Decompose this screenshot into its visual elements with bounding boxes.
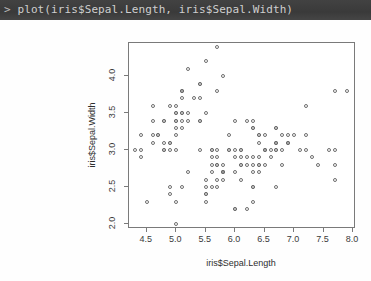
scatter-point: [292, 133, 296, 137]
scatter-point: [304, 148, 308, 152]
scatter-point: [333, 178, 337, 182]
scatter-point: [168, 104, 172, 108]
y-tick-label: 2.0: [107, 217, 117, 230]
scatter-point: [251, 163, 255, 167]
scatter-point: [198, 96, 202, 100]
scatter-point: [162, 141, 166, 145]
scatter-point: [174, 222, 178, 226]
scatter-point: [174, 133, 178, 137]
scatter-point: [145, 200, 149, 204]
scatter-point: [274, 148, 278, 152]
scatter-point: [139, 133, 143, 137]
scatter-point: [168, 148, 172, 152]
scatter-point: [304, 133, 308, 137]
scatter-point: [239, 155, 243, 159]
scatter-point: [227, 148, 231, 152]
scatter-point: [198, 82, 202, 86]
y-tick: [124, 186, 128, 187]
x-tick-label: 4.5: [139, 234, 152, 244]
scatter-point: [215, 89, 219, 93]
scatter-point: [174, 104, 178, 108]
x-tick: [293, 228, 294, 232]
scatter-point: [251, 200, 255, 204]
x-tick-label: 6.0: [228, 234, 241, 244]
scatter-point: [215, 148, 219, 152]
scatter-point: [180, 111, 184, 115]
scatter-point: [221, 163, 225, 167]
x-tick-label: 5.5: [198, 234, 211, 244]
scatter-point: [151, 133, 155, 137]
scatter-point: [133, 148, 137, 152]
x-tick-label: 7.0: [287, 234, 300, 244]
scatter-point: [274, 185, 278, 189]
x-tick: [175, 228, 176, 232]
scatter-point: [239, 163, 243, 167]
scatter-point: [180, 185, 184, 189]
scatter-point: [333, 148, 337, 152]
scatter-point: [221, 170, 225, 174]
scatter-point: [215, 185, 219, 189]
scatter-point: [239, 148, 243, 152]
scatter-point: [204, 192, 208, 196]
scatter-point: [180, 126, 184, 130]
scatter-point: [174, 200, 178, 204]
scatter-point: [192, 96, 196, 100]
x-tick: [205, 228, 206, 232]
scatter-point: [180, 96, 184, 100]
scatter-point: [221, 74, 225, 78]
scatter-point: [186, 170, 190, 174]
x-axis-title: iris$Sepal.Length: [206, 258, 276, 268]
scatter-point: [210, 163, 214, 167]
y-tick-label: 3.0: [107, 143, 117, 156]
scatter-point: [251, 119, 255, 123]
scatter-point: [286, 141, 290, 145]
scatter-point: [274, 141, 278, 145]
scatter-point: [316, 163, 320, 167]
x-tick: [352, 228, 353, 232]
console-command-bar[interactable]: > plot(iris$Sepal.Length, iris$Sepal.Wid…: [0, 0, 371, 20]
scatter-point: [210, 148, 214, 152]
scatter-point: [257, 163, 261, 167]
scatter-point: [257, 141, 261, 145]
scatter-point: [168, 192, 172, 196]
scatter-point: [198, 148, 202, 152]
scatter-point: [156, 133, 160, 137]
scatter-point: [263, 133, 267, 137]
scatter-point: [310, 155, 314, 159]
scatter-point: [280, 148, 284, 152]
y-tick-label: 2.5: [107, 180, 117, 193]
console-command-text: plot(iris$Sepal.Length, iris$Sepal.Width…: [17, 3, 293, 16]
scatter-point: [280, 133, 284, 137]
scatter-point: [239, 178, 243, 182]
scatter-point: [245, 155, 249, 159]
x-tick: [323, 228, 324, 232]
y-tick: [124, 75, 128, 76]
x-tick-label: 6.5: [257, 234, 270, 244]
scatter-point: [174, 111, 178, 115]
scatter-point: [304, 104, 308, 108]
scatter-point: [168, 141, 172, 145]
scatter-point: [245, 163, 249, 167]
scatter-point: [204, 185, 208, 189]
scatter-point: [280, 163, 284, 167]
scatter-point: [180, 119, 184, 123]
scatter-point: [204, 59, 208, 63]
scatter-point: [151, 104, 155, 108]
y-tick-label: 4.0: [107, 69, 117, 82]
scatter-point: [139, 148, 143, 152]
scatter-points-layer: [129, 43, 354, 227]
y-tick: [124, 149, 128, 150]
scatter-point: [198, 119, 202, 123]
y-tick: [124, 112, 128, 113]
scatter-point: [233, 148, 237, 152]
scatter-point: [139, 155, 143, 159]
x-tick: [146, 228, 147, 232]
scatter-point: [174, 148, 178, 152]
scatter-point: [333, 89, 337, 93]
scatter-point: [327, 148, 331, 152]
plot-frame: [128, 42, 355, 228]
scatter-point: [245, 207, 249, 211]
scatter-point: [162, 119, 166, 123]
scatter-point: [333, 163, 337, 167]
scatter-point: [286, 133, 290, 137]
